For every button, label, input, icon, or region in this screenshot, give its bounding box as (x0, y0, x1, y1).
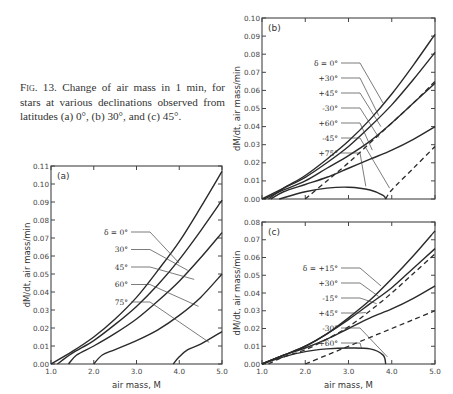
leader-line (341, 123, 372, 150)
y-tick-label: 0.10 (33, 180, 49, 189)
curve-label: 45° (115, 263, 129, 272)
chart-panel-a: 1.02.03.04.05.00.000.010.020.030.040.050… (22, 162, 228, 391)
y-tick-label: 0.06 (244, 86, 260, 95)
chart-panel-b: 0.000.010.020.030.040.050.060.070.080.09… (232, 14, 435, 204)
series-curve (262, 286, 435, 364)
curve-label: -15° (322, 294, 338, 303)
curve-label: δ = 0° (104, 228, 128, 237)
y-tick-label: 0.11 (33, 162, 49, 171)
y-tick-label: 0.07 (244, 68, 260, 77)
curve-label: +45° (318, 89, 338, 98)
leader-line (131, 232, 179, 263)
curve-label: +30° (318, 279, 338, 288)
x-tick-label: 5.0 (429, 367, 441, 376)
y-tick-label: 0.00 (244, 360, 260, 369)
curve-label: -45° (322, 134, 338, 143)
y-tick-label: 0.01 (33, 342, 49, 351)
x-tick-label: 3.0 (131, 367, 143, 376)
figure-canvas: 1.02.03.04.05.00.000.010.020.030.040.050… (0, 0, 453, 394)
curve-label: +30° (318, 74, 338, 83)
y-tick-label: 0.01 (244, 342, 260, 351)
y-axis-label: dM/dt, air mass/min (232, 66, 242, 151)
curve-label: +75° (318, 149, 338, 158)
plot-frame (51, 166, 222, 364)
y-tick-label: 0.02 (244, 158, 260, 167)
y-tick-label: 0.00 (244, 195, 260, 204)
y-tick-label: 0.08 (33, 216, 49, 225)
y-tick-label: 0.05 (33, 270, 49, 279)
x-tick-label: 4.0 (174, 367, 186, 376)
y-tick-label: 0.06 (244, 253, 260, 262)
curve-label: +60° (318, 339, 338, 348)
y-tick-label: 0.00 (33, 360, 49, 369)
x-axis-label: air mass, M (324, 380, 373, 390)
curve-label: δ = 0° (314, 59, 338, 68)
y-tick-label: 0.03 (33, 306, 49, 315)
y-tick-label: 0.05 (244, 271, 260, 280)
y-tick-label: 0.07 (33, 234, 49, 243)
y-tick-label: 0.04 (244, 289, 260, 298)
y-tick-label: 0.08 (244, 50, 260, 59)
series-curve (262, 231, 435, 364)
panel-label: (a) (57, 171, 70, 181)
series-curve (279, 187, 385, 199)
y-tick-label: 0.02 (244, 324, 260, 333)
y-tick-label: 0.09 (33, 198, 49, 207)
y-tick-label: 0.03 (244, 140, 260, 149)
curve-label: +60° (318, 119, 338, 128)
y-tick-label: 0.08 (244, 218, 260, 227)
series-curve (94, 274, 222, 364)
curve-label: -30° (322, 324, 338, 333)
curve-label: +45° (318, 309, 338, 318)
y-tick-label: 0.03 (244, 306, 260, 315)
y-tick-label: 0.10 (244, 14, 260, 23)
leader-line (341, 343, 361, 348)
curve-label: 30° (115, 245, 129, 254)
series-curve (305, 311, 435, 364)
curve-label: 60° (115, 280, 129, 289)
y-tick-label: 0.02 (33, 324, 49, 333)
curve-label: 75° (115, 298, 129, 307)
leader-line (341, 78, 379, 116)
panel-label: (b) (268, 23, 281, 33)
x-tick-label: 3.0 (343, 367, 355, 376)
x-tick-label: 2.0 (300, 367, 312, 376)
y-tick-label: 0.04 (244, 122, 260, 131)
chart-panel-c: 1.02.03.04.05.00.000.010.020.030.040.050… (232, 218, 441, 391)
leader-line (341, 283, 379, 297)
series-curve (262, 52, 435, 199)
series-curve (268, 34, 435, 199)
series-curve (173, 332, 222, 364)
leader-line (341, 138, 390, 188)
x-tick-label: 5.0 (216, 367, 228, 376)
series-curve (51, 171, 222, 364)
curve-label: δ = +15° (303, 264, 338, 273)
y-tick-label: 0.09 (244, 32, 260, 41)
y-tick-label: 0.04 (33, 288, 49, 297)
y-tick-label: 0.07 (244, 235, 260, 244)
y-tick-label: 0.05 (244, 104, 260, 113)
leader-line (341, 63, 383, 103)
series-curve (386, 147, 435, 199)
x-tick-label: 2.0 (88, 367, 100, 376)
y-tick-label: 0.01 (244, 176, 260, 185)
y-axis-label: dM/dt, air mass/min (22, 223, 32, 308)
y-tick-label: 0.06 (33, 252, 49, 261)
y-axis-label: dM/dt, air mass/min (232, 251, 242, 336)
curve-label: -30° (322, 104, 338, 113)
x-axis-label: air mass, M (112, 380, 161, 390)
panel-label: (c) (268, 227, 280, 237)
x-tick-label: 4.0 (386, 367, 398, 376)
